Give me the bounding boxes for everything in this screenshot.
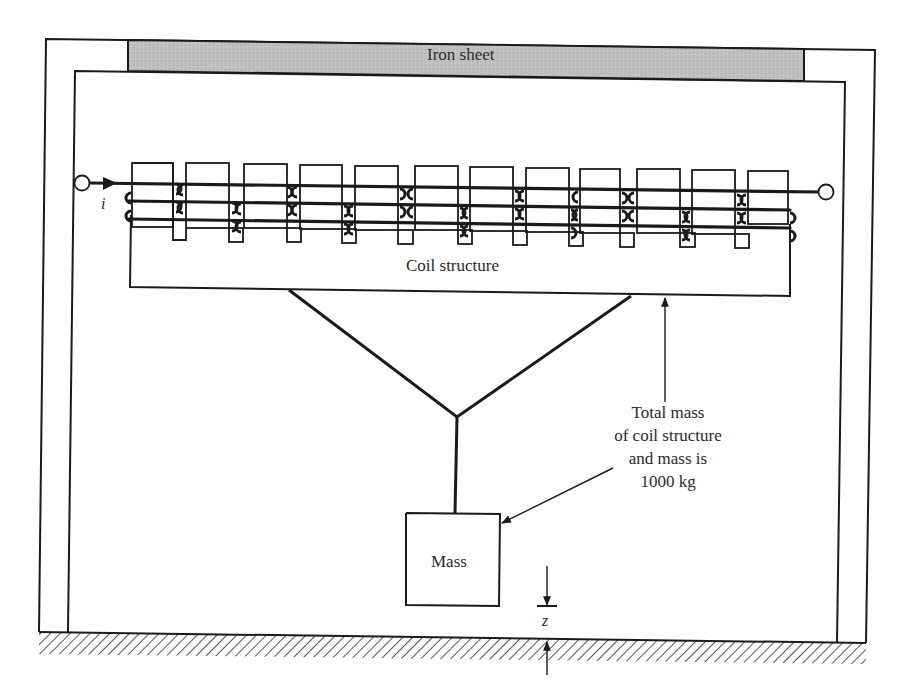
gap-symbol: z — [542, 612, 548, 630]
current-symbol: i — [101, 195, 105, 213]
note-line-3: and mass is — [592, 447, 744, 470]
ground — [39, 632, 866, 664]
terminal-left — [75, 176, 90, 191]
note-line-4: 1000 kg — [592, 470, 744, 493]
suspension — [289, 290, 631, 513]
note-line-1: Total mass — [592, 401, 744, 424]
coil-structure-label: Coil structure — [406, 256, 499, 276]
terminal-right — [819, 185, 834, 200]
note-line-2: of coil structure — [592, 424, 744, 447]
iron-sheet-label: Iron sheet — [427, 45, 495, 65]
mass-note: Total mass of coil structure and mass is… — [592, 401, 744, 493]
current-arrow-icon — [103, 177, 117, 190]
mass-label: Mass — [431, 552, 467, 572]
windings — [90, 183, 820, 228]
diagram-canvas — [0, 0, 911, 689]
